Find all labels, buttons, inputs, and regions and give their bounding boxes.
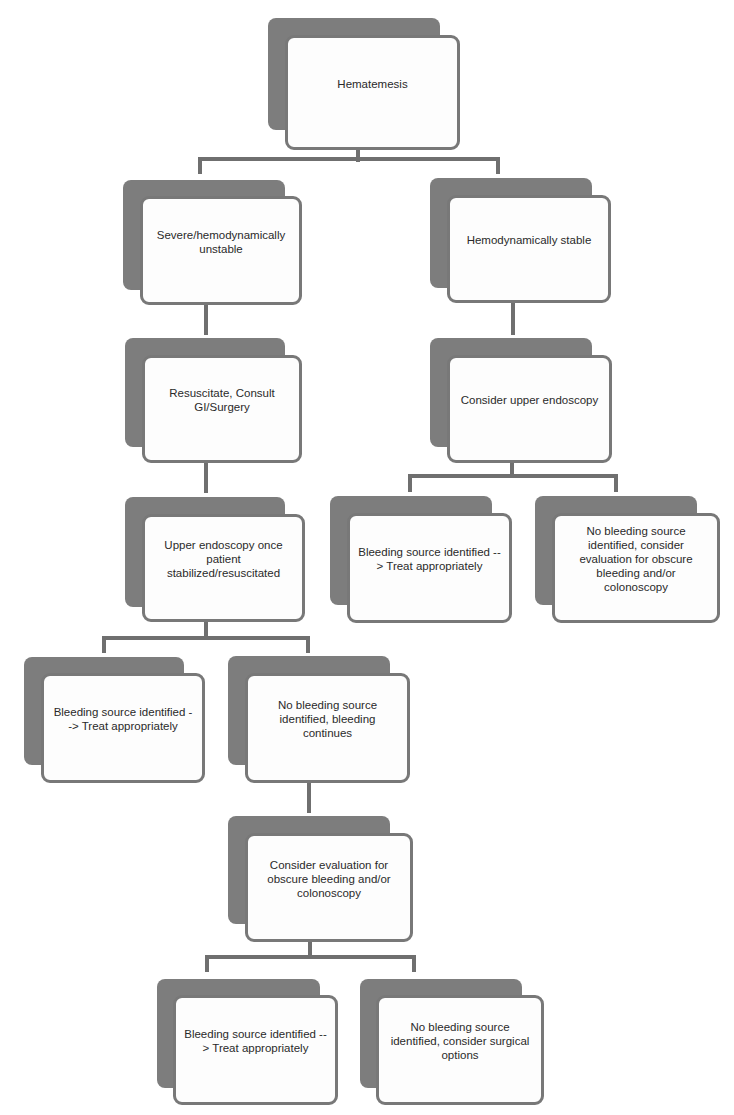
node-card: Consider evaluation for obscure bleeding… [245,833,413,942]
node-label: Hematemesis [337,77,407,91]
node-card: Severe/hemodynamically unstable [140,196,302,305]
connector-root-horizontal [198,157,500,161]
connector-endoscopy-horizontal [102,636,310,640]
node-label: Bleeding source identified --> Treat app… [184,1027,327,1055]
node-card: Bleeding source identified --> Treat app… [41,673,205,783]
node-label: Bleeding source identified --> Treat app… [358,545,501,573]
node-label: Bleeding source identified --> Treat app… [52,705,194,733]
node-card: No bleeding source identified, consider … [552,513,720,623]
connector-to-final-bleeding [205,955,209,972]
node-card: Hemodynamically stable [447,195,611,303]
node-label: No bleeding source identified, consider … [387,1020,533,1062]
connector-to-unstable-bleeding [102,636,106,653]
connector-resuscitate-endoscopy [204,463,208,493]
node-label: Severe/hemodynamically unstable [151,228,291,256]
connector-evaluate-down [308,942,312,956]
connector-stable-consider [511,303,515,335]
connector-to-stable [496,157,500,174]
node-card: Resuscitate, Consult GI/Surgery [142,355,302,463]
node-label: No bleeding source identified, consider … [563,524,709,594]
node-card: No bleeding source identified, consider … [376,995,544,1105]
node-label: Upper endoscopy once patient stabilized/… [153,538,294,580]
node-card: Upper endoscopy once patient stabilized/… [142,514,305,622]
connector-severe-resuscitate [204,305,208,335]
node-label: Resuscitate, Consult GI/Surgery [153,386,291,414]
node-label: Hemodynamically stable [467,233,592,247]
connector-to-stable-no-source [614,474,618,492]
node-card: Bleeding source identified --> Treat app… [347,513,512,623]
node-card: No bleeding source identified, bleeding … [245,673,410,783]
node-label: Consider evaluation for obscure bleeding… [256,858,402,900]
connector-to-severe [198,157,202,174]
connector-consider-horizontal [408,474,618,478]
node-label: Consider upper endoscopy [461,393,598,407]
connector-to-stable-bleeding [408,474,412,492]
node-card: Bleeding source identified --> Treat app… [173,995,338,1105]
connector-continues-evaluate [307,783,311,813]
connector-to-final-no-source [412,955,416,972]
node-card: Hematemesis [285,35,460,150]
flowchart-canvas: Hematemesis Severe/hemodynamically unsta… [0,0,734,1115]
connector-to-unstable-no-source [306,636,310,653]
connector-endoscopy-down [204,622,208,636]
node-label: No bleeding source identified, bleeding … [256,698,399,740]
connector-evaluate-horizontal [205,955,416,959]
node-card: Consider upper endoscopy [447,355,612,463]
